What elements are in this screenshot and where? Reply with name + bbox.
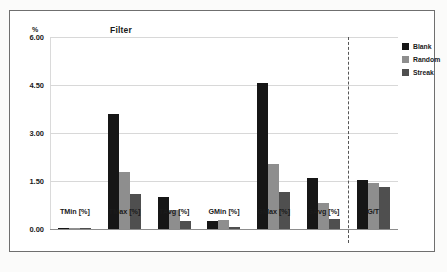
x-axis-tick-label: GMax [%] <box>249 207 299 216</box>
bar-random[interactable] <box>368 183 379 229</box>
y-axis-tick-label: 3.00 <box>10 129 44 138</box>
y-axis-tick-label: 1.50 <box>10 177 44 186</box>
bar-group <box>249 37 299 229</box>
legend-swatch-icon <box>402 69 409 76</box>
bar-group <box>100 37 150 229</box>
legend-swatch-icon <box>402 43 409 50</box>
bar-group <box>299 37 349 229</box>
y-axis-tick-label: 0.00 <box>10 225 44 234</box>
legend-label: Streak <box>413 69 434 76</box>
bar-blank[interactable] <box>307 178 318 229</box>
legend-item[interactable]: Blank <box>402 43 440 50</box>
x-axis-tick-label: G/T <box>348 207 398 216</box>
x-axis-tick-label: TMax [%] <box>100 207 150 216</box>
x-axis-tick-label: GMin [%] <box>199 207 249 216</box>
legend-label: Random <box>413 56 440 63</box>
bar-group-bars <box>50 37 100 229</box>
legend-label: Blank <box>413 43 432 50</box>
y-axis-tick-label: 4.50 <box>10 81 44 90</box>
bar-random[interactable] <box>119 172 130 229</box>
x-axis-tick-label: TMin [%] <box>50 207 100 216</box>
x-axis-tick-label: TAvg [%] <box>149 207 199 216</box>
x-axis-baseline <box>50 229 398 230</box>
scanned-figure-page: % Filter 0.001.503.004.506.00 TMin [%]TM… <box>0 0 447 272</box>
bar-blank[interactable] <box>58 228 69 229</box>
bar-blank[interactable] <box>207 221 218 229</box>
bar-streak[interactable] <box>229 227 240 229</box>
bar-group <box>199 37 249 229</box>
bar-streak[interactable] <box>329 219 340 229</box>
y-axis-tick-label: 6.00 <box>10 33 44 42</box>
bar-blank[interactable] <box>357 180 368 229</box>
bar-group <box>50 37 100 229</box>
bar-group-bars <box>348 37 398 229</box>
bar-random[interactable] <box>268 164 279 229</box>
plot-area <box>50 37 398 229</box>
legend-item[interactable]: Streak <box>402 69 440 76</box>
bar-streak[interactable] <box>180 221 191 229</box>
bar-group-bars <box>199 37 249 229</box>
chart-legend: BlankRandomStreak <box>402 43 440 82</box>
legend-swatch-icon <box>402 56 409 63</box>
figure-frame: % Filter 0.001.503.004.506.00 TMin [%]TM… <box>9 10 435 252</box>
bar-group-bars <box>299 37 349 229</box>
legend-item[interactable]: Random <box>402 56 440 63</box>
bar-group-bars <box>249 37 299 229</box>
bar-random[interactable] <box>69 228 80 229</box>
bar-group <box>348 37 398 229</box>
chart-title: Filter <box>110 25 132 35</box>
x-axis-tick-label: GAvg [%] <box>299 207 349 216</box>
bar-group <box>149 37 199 229</box>
bar-streak[interactable] <box>80 228 91 229</box>
bar-random[interactable] <box>218 220 229 229</box>
bar-group-bars <box>100 37 150 229</box>
bar-group-bars <box>149 37 199 229</box>
